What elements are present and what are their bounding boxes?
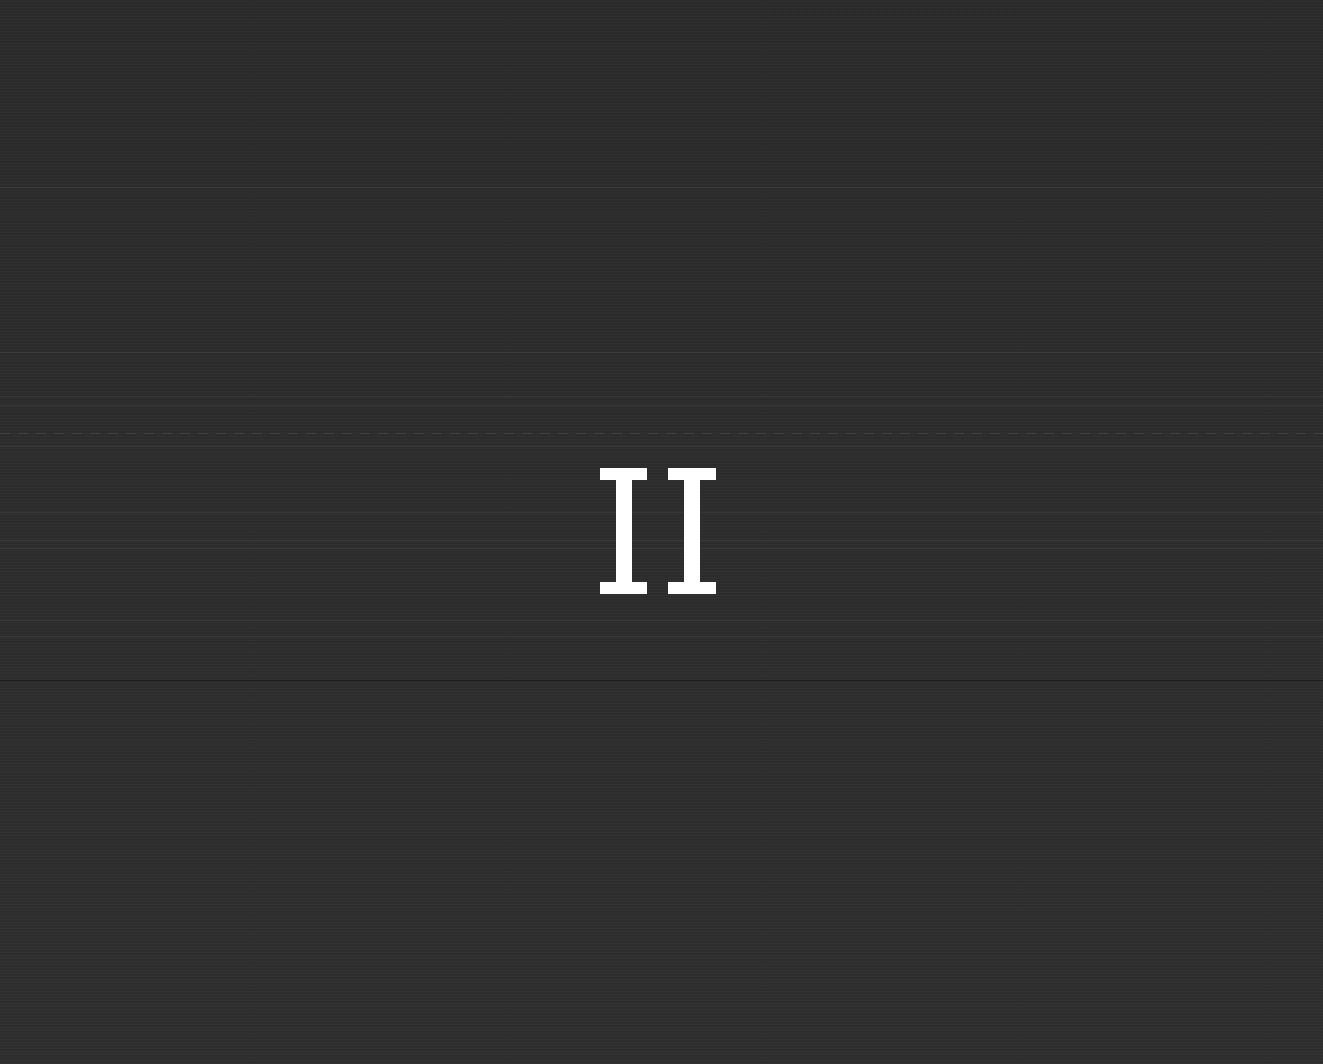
video-frame[interactable] — [0, 0, 1323, 1064]
scanline — [0, 636, 1323, 637]
scanline — [0, 396, 1323, 397]
scanline — [0, 446, 1323, 447]
scanline — [0, 352, 1323, 353]
scanline — [0, 405, 1323, 406]
scanline — [0, 620, 1323, 621]
scanline — [0, 680, 1323, 681]
scanline — [0, 187, 1323, 188]
scanline — [0, 433, 1323, 434]
pause-icon[interactable] — [600, 468, 716, 594]
